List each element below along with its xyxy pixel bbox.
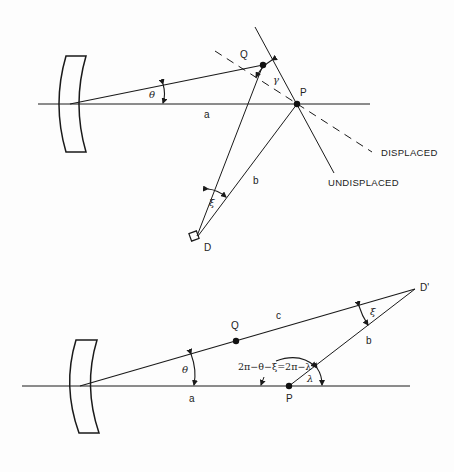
point-P-bottom xyxy=(286,383,292,389)
label-xi-top: ξ xyxy=(209,198,215,208)
line-Q-to-D xyxy=(197,65,263,236)
formula-pointer xyxy=(261,377,264,385)
theta-arc-bottom xyxy=(191,354,195,385)
label-displaced: DISPLACED xyxy=(381,148,438,158)
label-undisplaced: UNDISPLACED xyxy=(328,178,399,188)
point-Q-bottom xyxy=(233,338,239,344)
label-theta-top: θ xyxy=(149,90,155,100)
label-lambda: λ xyxy=(307,374,313,384)
ray-mirror-to-Q xyxy=(70,65,263,104)
lambda-arc xyxy=(317,368,322,385)
top-diagram xyxy=(38,27,372,241)
label-xi-bottom: ξ xyxy=(370,307,376,317)
theta-arc-top xyxy=(163,84,165,103)
xi-arc-bottom xyxy=(359,306,368,325)
label-b-top: b xyxy=(253,176,259,186)
label-D: D xyxy=(204,243,211,253)
detector-D xyxy=(189,231,199,241)
undisplaced-line xyxy=(255,27,334,173)
displaced-line xyxy=(215,51,372,152)
label-D-prime: D' xyxy=(420,283,429,293)
label-Q-bottom: Q xyxy=(231,321,239,331)
label-a-bottom: a xyxy=(189,394,195,404)
xi-arc-top xyxy=(208,189,226,197)
label-c: c xyxy=(276,311,281,321)
label-b-bottom: b xyxy=(366,336,372,346)
label-P-top: P xyxy=(300,88,307,98)
label-a-top: a xyxy=(204,110,210,120)
label-gamma: γ xyxy=(273,75,279,85)
diagram-canvas xyxy=(0,0,454,472)
label-theta-bottom: θ xyxy=(182,365,188,375)
point-P-top xyxy=(294,101,300,107)
point-Q-top xyxy=(260,62,266,68)
label-Q-top: Q xyxy=(240,50,248,60)
line-P-to-D xyxy=(198,104,297,236)
angle-formula: 2π−θ−ξ=2π−λ xyxy=(238,362,311,372)
label-P-bottom: P xyxy=(286,394,293,404)
bottom-diagram xyxy=(22,289,415,433)
